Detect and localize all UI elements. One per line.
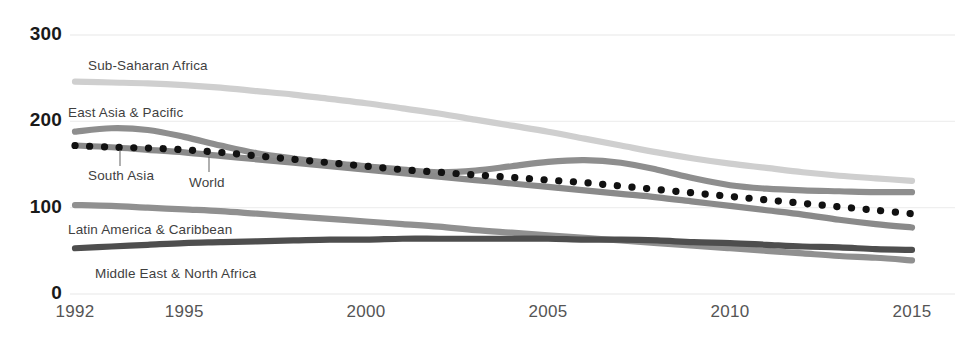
series-label-world: World <box>189 175 225 190</box>
y-axis-tick-200: 200 <box>0 109 62 131</box>
series-label-east-asia-pacific: East Asia & Pacific <box>68 105 183 120</box>
series-line-middle-east-north-africa <box>75 239 912 250</box>
y-axis-tick-100: 100 <box>0 196 62 218</box>
x-axis-tick-2015: 2015 <box>878 302 946 322</box>
series-label-middle-east-north-africa: Middle East & North Africa <box>95 266 256 281</box>
x-axis-tick-2000: 2000 <box>332 302 400 322</box>
y-axis-tick-300: 300 <box>0 23 62 45</box>
x-axis-tick-1995: 1995 <box>150 302 218 322</box>
chart-container: 0100200300 199219952000200520102015 Sub-… <box>0 0 961 337</box>
series-label-sub-saharan-africa: Sub-Saharan Africa <box>88 58 208 73</box>
series-label-latin-america-caribbean: Latin America & Caribbean <box>68 222 232 237</box>
x-axis-tick-2010: 2010 <box>696 302 764 322</box>
x-axis-tick-1992: 1992 <box>41 302 109 322</box>
series-label-south-asia: South Asia <box>88 168 154 183</box>
y-axis-tick-0: 0 <box>0 282 62 304</box>
x-axis-tick-2005: 2005 <box>514 302 582 322</box>
